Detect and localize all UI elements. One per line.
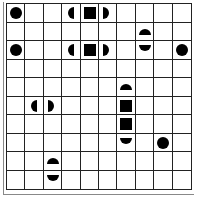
board-cell[interactable] [62, 4, 80, 23]
board-cell[interactable] [154, 41, 172, 60]
board-cell[interactable] [173, 152, 191, 171]
board-cell[interactable] [117, 41, 135, 60]
board-cell[interactable] [7, 41, 25, 60]
board-cell[interactable] [62, 23, 80, 42]
board-cell[interactable] [81, 78, 99, 97]
board-cell[interactable] [62, 134, 80, 153]
board-cell[interactable] [44, 78, 62, 97]
board-cell[interactable] [136, 134, 154, 153]
board-cell[interactable] [154, 78, 172, 97]
board-cell[interactable] [62, 78, 80, 97]
board-cell[interactable] [99, 78, 117, 97]
board-cell[interactable] [117, 171, 135, 190]
board-cell[interactable] [136, 23, 154, 42]
board-cell[interactable] [173, 23, 191, 42]
board-cell[interactable] [154, 97, 172, 116]
board-cell[interactable] [99, 60, 117, 79]
board-cell[interactable] [81, 23, 99, 42]
board-cell[interactable] [25, 78, 43, 97]
board-cell[interactable] [99, 115, 117, 134]
board-cell[interactable] [25, 60, 43, 79]
board-cell[interactable] [99, 134, 117, 153]
board-cell[interactable] [7, 78, 25, 97]
board-cell[interactable] [173, 4, 191, 23]
game-board[interactable] [6, 3, 192, 190]
board-cell[interactable] [173, 41, 191, 60]
board-cell[interactable] [44, 171, 62, 190]
board-cell[interactable] [136, 97, 154, 116]
board-cell[interactable] [154, 23, 172, 42]
board-cell[interactable] [99, 152, 117, 171]
board-cell[interactable] [81, 60, 99, 79]
board-cell[interactable] [154, 171, 172, 190]
board-cell[interactable] [44, 97, 62, 116]
board-cell[interactable] [136, 60, 154, 79]
board-cell[interactable] [25, 97, 43, 116]
board-cell[interactable] [173, 115, 191, 134]
board-cell[interactable] [62, 171, 80, 190]
board-cell[interactable] [136, 78, 154, 97]
board-cell[interactable] [99, 41, 117, 60]
board-cell[interactable] [81, 4, 99, 23]
board-cell[interactable] [81, 41, 99, 60]
board-cell[interactable] [7, 23, 25, 42]
board-cell[interactable] [117, 134, 135, 153]
board-cell[interactable] [44, 4, 62, 23]
board-cell[interactable] [62, 97, 80, 116]
board-cell[interactable] [44, 134, 62, 153]
board-cell[interactable] [62, 60, 80, 79]
board-cell[interactable] [99, 4, 117, 23]
board-cell[interactable] [173, 171, 191, 190]
board-cell[interactable] [44, 152, 62, 171]
board-cell[interactable] [25, 134, 43, 153]
board-cell[interactable] [154, 60, 172, 79]
board-cell[interactable] [117, 152, 135, 171]
board-cell[interactable] [117, 78, 135, 97]
board-cell[interactable] [25, 4, 43, 23]
board-cell[interactable] [44, 115, 62, 134]
board-cell[interactable] [154, 115, 172, 134]
board-cell[interactable] [117, 97, 135, 116]
board-cell[interactable] [7, 97, 25, 116]
board-cell[interactable] [99, 97, 117, 116]
board-cell[interactable] [154, 134, 172, 153]
board-cell[interactable] [81, 115, 99, 134]
board-cell[interactable] [81, 97, 99, 116]
board-cell[interactable] [154, 152, 172, 171]
board-cell[interactable] [136, 41, 154, 60]
board-cell[interactable] [117, 4, 135, 23]
board-cell[interactable] [44, 41, 62, 60]
board-cell[interactable] [173, 134, 191, 153]
board-cell[interactable] [81, 152, 99, 171]
board-cell[interactable] [117, 60, 135, 79]
board-cell[interactable] [25, 171, 43, 190]
board-cell[interactable] [62, 41, 80, 60]
board-cell[interactable] [81, 171, 99, 190]
board-cell[interactable] [136, 4, 154, 23]
board-cell[interactable] [173, 78, 191, 97]
board-cell[interactable] [7, 4, 25, 23]
board-cell[interactable] [136, 171, 154, 190]
board-cell[interactable] [44, 60, 62, 79]
board-cell[interactable] [62, 152, 80, 171]
board-cell[interactable] [62, 115, 80, 134]
board-cell[interactable] [136, 152, 154, 171]
board-cell[interactable] [7, 152, 25, 171]
board-cell[interactable] [7, 134, 25, 153]
board-cell[interactable] [81, 134, 99, 153]
board-cell[interactable] [117, 23, 135, 42]
board-cell[interactable] [25, 41, 43, 60]
board-cell[interactable] [25, 23, 43, 42]
board-cell[interactable] [44, 23, 62, 42]
board-cell[interactable] [99, 171, 117, 190]
board-cell[interactable] [7, 115, 25, 134]
board-cell[interactable] [136, 115, 154, 134]
board-cell[interactable] [117, 115, 135, 134]
board-cell[interactable] [99, 23, 117, 42]
board-cell[interactable] [173, 60, 191, 79]
board-cell[interactable] [25, 115, 43, 134]
board-cell[interactable] [25, 152, 43, 171]
board-cell[interactable] [7, 60, 25, 79]
board-cell[interactable] [7, 171, 25, 190]
board-cell[interactable] [154, 4, 172, 23]
